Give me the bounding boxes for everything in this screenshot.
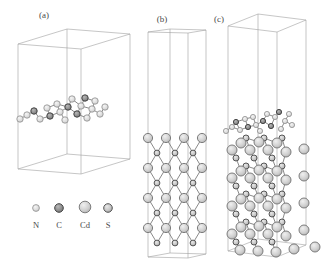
atom-N [57,109,63,115]
atom-N [242,116,247,121]
legend-spheres [33,201,113,213]
atom-Cd [197,193,206,202]
atom-Cd [263,173,273,183]
cell-edge [18,154,130,174]
cell-edge [18,29,130,49]
legend-label-c: C [56,220,62,230]
cell-edge [148,253,206,258]
atom-N [62,117,68,123]
legend-label-cd: Cd [80,220,91,230]
atom-N [17,116,23,122]
atom-S [269,239,275,245]
c-g-C3N4-monolayer [223,109,294,133]
cell-edge [228,14,306,32]
panel-c-structure [223,14,320,257]
panel-b: (b) [143,14,206,258]
figure-container: (a) (b) (c) N C Cd S [0,0,325,273]
atom-Cd [263,145,273,155]
atom-N [37,116,43,122]
atom-Cd [235,245,245,255]
atom-S [172,240,178,246]
atom-Cd [245,201,255,211]
atom-Cd [245,145,255,155]
atom-S [251,239,257,245]
atom-Cd [227,201,237,211]
legend-label-n: N [33,220,39,230]
atom-Cd [254,137,264,147]
atom-Cd [236,194,246,204]
atom-S [233,183,239,189]
panel-b-structure [143,29,206,258]
atom-Cd [161,163,170,172]
atom-Cd [271,247,281,257]
atom-N [282,118,287,123]
atom-N [84,115,90,121]
atom-Cd [161,133,170,142]
atom-Cd [236,138,246,148]
atom-S [172,150,178,156]
atom-Cd [272,138,282,148]
panel-a-structure [17,29,130,174]
atom-Cd [197,133,206,142]
panel-a: (a) [17,10,130,174]
legend-sphere-C [55,204,64,213]
atom-Cd [236,166,246,176]
atom-Cd [254,221,264,231]
atom-Cd [281,203,291,213]
panel-c-label: (c) [214,14,224,24]
atom-Cd [161,193,170,202]
atom-Cd [227,145,237,155]
atom-Cd [143,163,152,172]
atom-N [44,105,50,111]
atom-C [260,118,265,123]
atom-Cd [161,223,170,232]
atom-N [89,106,95,112]
atom-Cd [310,242,320,252]
atom-S [269,211,275,217]
atom-N [286,111,291,116]
atom-Cd [272,222,282,232]
atom-N [54,101,60,107]
atom-S [251,211,257,217]
atom-N [250,114,255,119]
atom-C [47,113,53,119]
atom-N [229,124,234,129]
legend-sphere-N [33,205,40,212]
atom-Cd [299,198,309,208]
atom-C [233,119,238,124]
atom-Cd [281,231,291,241]
atom-N [278,126,283,131]
atom-N [272,114,277,119]
atom-Cd [299,144,309,154]
atom-N [237,127,242,132]
atom-C [245,124,250,129]
atom-Cd [272,166,282,176]
atom-C [276,109,281,114]
atom-Cd [179,193,188,202]
atom-Cd [245,173,255,183]
atom-Cd [227,229,237,239]
atom-N [78,103,84,109]
atom-N [92,98,98,104]
panel-c: (c) [214,14,320,257]
atom-Cd [254,165,264,175]
atom-S [251,183,257,189]
atom-C [65,104,71,110]
legend: N C Cd S [33,201,113,230]
cell-edge [148,29,206,33]
legend-sphere-S [104,204,113,213]
atom-N [289,122,294,127]
legend-sphere-Cd [79,201,91,213]
atom-S [190,150,196,156]
atom-N [97,111,103,117]
crystal-structure-figure: (a) (b) (c) N C Cd S [0,0,325,273]
atom-Cd [197,223,206,232]
atom-Cd [245,229,255,239]
atom-Cd [179,223,188,232]
atom-Cd [143,193,152,202]
atom-N [102,104,108,110]
atom-Cd [197,163,206,172]
atom-Cd [253,246,263,256]
atom-Cd [143,133,152,142]
legend-label-s: S [106,220,111,230]
